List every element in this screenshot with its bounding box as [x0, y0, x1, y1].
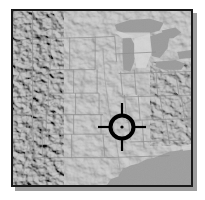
relief-map-image [13, 11, 191, 185]
crosshair-center-dot [120, 125, 123, 128]
map-frame[interactable] [11, 9, 193, 187]
map-canvas[interactable] [13, 11, 191, 185]
crosshair-icon[interactable] [97, 102, 147, 152]
locator-map-figure [0, 0, 205, 200]
